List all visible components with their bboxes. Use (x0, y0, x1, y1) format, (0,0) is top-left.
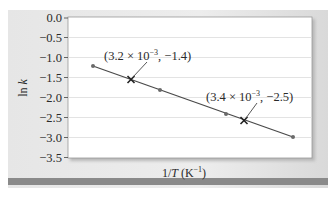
y-axis-title: ln k (16, 78, 30, 96)
y-axis-labels: 0.0 −0.5 −1.0 −1.5 −2.0 −2.5 −3.0 −3.5 (39, 11, 62, 165)
y-tick-label: −0.5 (39, 31, 62, 45)
y-tick-label: −3.5 (39, 151, 62, 165)
annotation-1: (3.2 × 10−3, −1.4) (104, 48, 191, 63)
x-axis-title: 1/T (K−1) (162, 165, 206, 180)
y-tick-label: −1.5 (39, 71, 62, 85)
y-tick-label: −2.5 (39, 111, 62, 125)
y-tick-label: −1.0 (39, 51, 62, 65)
y-tick-label: −3.0 (39, 131, 62, 145)
y-tick-label: 0.0 (46, 11, 62, 25)
data-point (158, 88, 162, 92)
chart-svg: 0.0 −0.5 −1.0 −1.5 −2.0 −2.5 −3.0 −3.5 l… (0, 0, 336, 204)
data-point (291, 135, 295, 139)
data-point (224, 112, 228, 116)
y-axis-ticks (64, 18, 68, 158)
annotation-2: (3.4 × 10−3, −2.5) (206, 89, 293, 104)
plot-area (68, 17, 312, 158)
data-point (91, 64, 95, 68)
y-tick-label: −2.0 (39, 91, 62, 105)
